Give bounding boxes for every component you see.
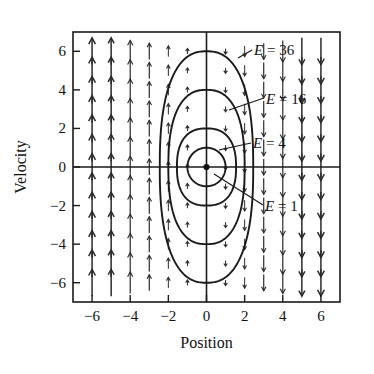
x-tick-label: −6 — [84, 308, 100, 324]
x-axis-title: Position — [180, 334, 232, 351]
y-axis-title: Velocity — [12, 140, 30, 193]
x-tick-label: 6 — [317, 308, 325, 324]
y-tick-label: −6 — [50, 275, 66, 291]
energy-label-e36: E = 36 — [253, 42, 295, 58]
y-tick-label: 6 — [59, 43, 67, 59]
y-tick-label: 4 — [59, 82, 67, 98]
equilibrium-point-marker — [203, 164, 209, 170]
energy-label-e1: E = 1 — [264, 198, 298, 214]
plot-canvas: −6−4−20246 6420−2−4−6 Position Velocity … — [0, 0, 374, 374]
phase-portrait-figure: −6−4−20246 6420−2−4−6 Position Velocity … — [0, 0, 374, 374]
x-tick-label: −4 — [122, 308, 138, 324]
x-tick-label: 4 — [279, 308, 287, 324]
y-tick-label: −2 — [50, 198, 66, 214]
y-tick-label: 2 — [59, 120, 67, 136]
x-tick-label: −2 — [160, 308, 176, 324]
x-axis-tick-labels: −6−4−20246 — [84, 308, 325, 324]
energy-label-e4: E = 4 — [252, 135, 286, 151]
x-tick-label: 0 — [203, 308, 211, 324]
y-axis-tick-labels: 6420−2−4−6 — [50, 43, 66, 290]
energy-label-e16: E = 16 — [265, 91, 307, 107]
x-tick-label: 2 — [241, 308, 249, 324]
y-tick-label: 0 — [59, 159, 67, 175]
y-tick-label: −4 — [50, 236, 66, 252]
